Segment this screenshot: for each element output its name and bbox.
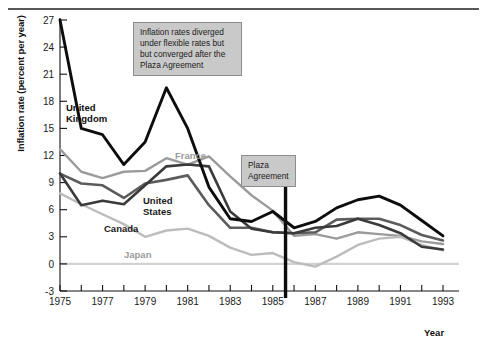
plaza-agreement-callout: Plaza Agreement: [241, 155, 296, 187]
series-label-france: France: [175, 151, 206, 162]
y-tick-label: 0: [48, 259, 54, 270]
y-tick-label: 27: [43, 15, 55, 26]
y-tick-label: 24: [43, 42, 55, 53]
y-tick-label: 3: [48, 231, 54, 242]
x-tick-label: 1979: [134, 296, 157, 307]
y-tick-label: -3: [45, 286, 54, 297]
x-tick-label: 1987: [304, 296, 327, 307]
x-tick-label: 1975: [49, 296, 72, 307]
series-label-united-kingdom: United Kingdom: [66, 103, 107, 125]
x-tick-label: 1989: [347, 296, 370, 307]
y-tick-label: 15: [43, 123, 55, 134]
x-axis: 1975197719791981198319851987198919911993: [49, 285, 459, 307]
x-tick-label: 1993: [432, 296, 455, 307]
series-label-united-states: United States: [143, 196, 173, 218]
series-label-canada: Canada: [104, 224, 138, 235]
x-tick-label: 1977: [91, 296, 114, 307]
y-axis-ticks: -30369121518212427: [43, 15, 67, 297]
x-tick-label: 1981: [177, 296, 200, 307]
x-tick-label: 1991: [389, 296, 412, 307]
y-tick-label: 21: [43, 69, 55, 80]
y-tick-label: 18: [43, 96, 55, 107]
chart-root: Inflation rate (percent per year) Year -…: [0, 0, 487, 341]
annotation-callout: Inflation rates diverged under flexible …: [133, 22, 242, 76]
series-label-japan: Japan: [124, 250, 151, 261]
y-tick-label: 6: [48, 204, 54, 215]
x-tick-label: 1983: [219, 296, 242, 307]
x-tick-label: 1985: [262, 296, 285, 307]
y-tick-label: 12: [43, 150, 55, 161]
y-tick-label: 9: [48, 177, 54, 188]
